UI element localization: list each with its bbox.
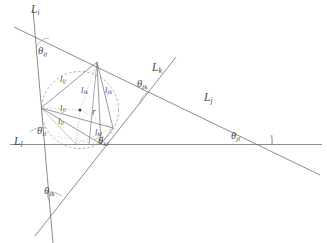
length-label-l-kl: lkl bbox=[95, 128, 102, 138]
line-label-Lj: Lj bbox=[204, 92, 213, 105]
length-label-l-il: lil bbox=[58, 117, 64, 127]
line-label-Lk: Lk bbox=[152, 62, 162, 75]
length-label-l-jl: ljl bbox=[60, 104, 66, 114]
circle-center-point bbox=[79, 109, 82, 112]
geometry-diagram-figure: Li Lj Lk Ll θij θjk θjl θil θkl θik lij … bbox=[0, 0, 327, 243]
line-label-Ll: Ll bbox=[14, 136, 23, 149]
angle-label-theta-ik: θik bbox=[44, 186, 55, 198]
length-label-l-ij: lij bbox=[60, 75, 66, 85]
line-label-Li: Li bbox=[31, 4, 40, 17]
length-label-l-jk: ljk bbox=[105, 86, 112, 96]
angle-label-theta-jl: θjl bbox=[231, 131, 241, 143]
vertex-chords bbox=[41, 62, 113, 144]
angle-label-theta-il: θil bbox=[37, 126, 47, 138]
length-label-l-ik: lik bbox=[81, 86, 88, 96]
angle-label-theta-jk: θjk bbox=[137, 79, 148, 91]
radius-label-r: r bbox=[92, 108, 96, 118]
center-construction-lines bbox=[41, 62, 113, 144]
diagram-canvas bbox=[0, 0, 327, 243]
line-Lj bbox=[14, 27, 320, 175]
angle-label-theta-ij: θij bbox=[38, 46, 48, 58]
